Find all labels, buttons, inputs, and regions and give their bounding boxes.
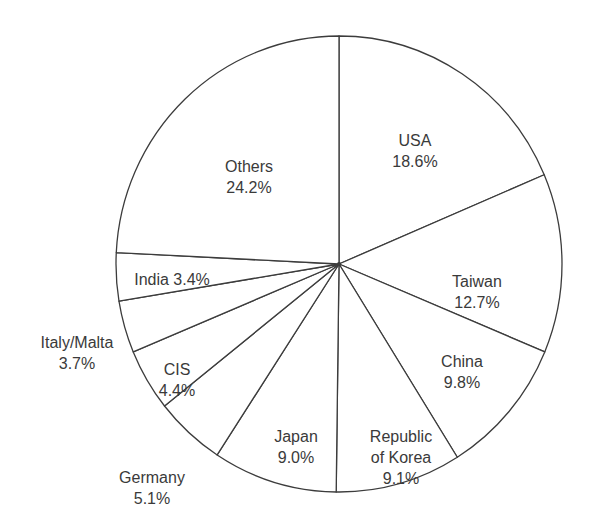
slice-label-republic-of-korea: Republicof Korea9.1% bbox=[370, 426, 432, 489]
slice-label-line: Japan bbox=[274, 426, 318, 447]
slice-label-line: CIS bbox=[159, 359, 195, 380]
slice-label-line: India 3.4% bbox=[134, 269, 210, 290]
slice-label-line: of Korea bbox=[370, 447, 432, 468]
slice-label-line: 5.1% bbox=[119, 488, 185, 509]
slice-label-line: USA bbox=[392, 130, 437, 151]
slice-label-line: 9.8% bbox=[441, 372, 483, 393]
slice-label-japan: Japan9.0% bbox=[274, 426, 318, 468]
slice-label-others: Others24.2% bbox=[225, 156, 273, 198]
slice-label-line: 24.2% bbox=[225, 177, 273, 198]
pie-slices bbox=[116, 36, 562, 492]
pie-slice-others bbox=[116, 36, 339, 264]
slice-label-line: China bbox=[441, 351, 483, 372]
slice-label-line: Others bbox=[225, 156, 273, 177]
slice-label-china: China9.8% bbox=[441, 351, 483, 393]
slice-label-usa: USA18.6% bbox=[392, 130, 437, 172]
slice-label-line: 4.4% bbox=[159, 380, 195, 401]
slice-label-line: Italy/Malta bbox=[41, 332, 114, 353]
slice-label-line: Republic bbox=[370, 426, 432, 447]
slice-label-line: Germany bbox=[119, 467, 185, 488]
slice-label-line: 12.7% bbox=[452, 292, 502, 313]
slice-label-germany: Germany5.1% bbox=[119, 467, 185, 509]
slice-label-line: 18.6% bbox=[392, 151, 437, 172]
slice-label-line: 9.0% bbox=[274, 447, 318, 468]
slice-label-india: India 3.4% bbox=[134, 269, 210, 290]
slice-label-line: Taiwan bbox=[452, 271, 502, 292]
slice-label-italy-malta: Italy/Malta3.7% bbox=[41, 332, 114, 374]
slice-label-taiwan: Taiwan12.7% bbox=[452, 271, 502, 313]
slice-label-cis: CIS4.4% bbox=[159, 359, 195, 401]
slice-label-line: 9.1% bbox=[370, 468, 432, 489]
pie-center-dot bbox=[337, 262, 341, 266]
slice-label-line: 3.7% bbox=[41, 353, 114, 374]
